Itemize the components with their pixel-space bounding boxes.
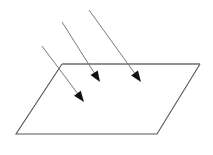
figure-background — [0, 0, 213, 155]
figure-container — [0, 0, 213, 155]
ray-plane-diagram — [0, 0, 213, 155]
